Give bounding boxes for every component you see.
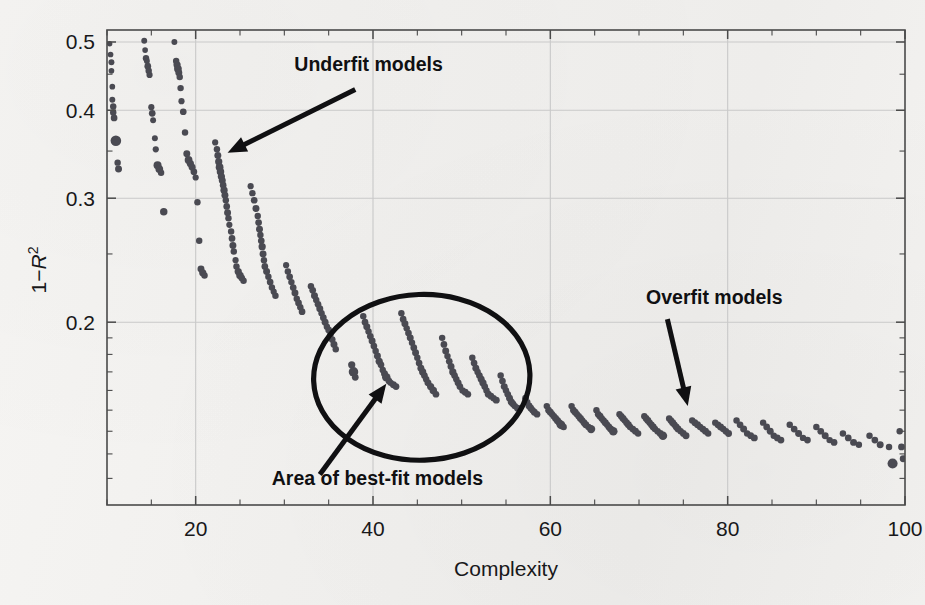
axis-tick-labels: 204060801000.20.30.40.5: [66, 30, 923, 540]
data-point: [214, 146, 220, 152]
data-point: [108, 52, 114, 58]
axis-ticks: [107, 30, 905, 505]
data-point: [258, 237, 265, 244]
data-point: [272, 293, 278, 299]
data-point: [228, 228, 234, 234]
data-point: [225, 215, 231, 221]
axis-frame: [107, 30, 905, 505]
data-point: [194, 199, 200, 205]
data-point: [214, 152, 221, 159]
data-point: [352, 374, 359, 381]
data-point: [177, 85, 183, 91]
data-point: [845, 435, 852, 442]
data-point: [178, 98, 184, 104]
data-point: [439, 335, 445, 341]
data-point: [725, 430, 732, 437]
data-point: [393, 383, 400, 390]
data-point: [257, 232, 263, 238]
data-point: [333, 346, 339, 352]
y-tick-label: 0.2: [66, 311, 95, 334]
data-point: [856, 441, 862, 447]
annotation-label-best-fit: Area of best-fit models: [272, 467, 483, 489]
data-point: [398, 310, 404, 316]
data-point: [635, 430, 641, 436]
data-point: [111, 135, 122, 146]
y-tick-label: 0.5: [66, 30, 95, 53]
data-point: [256, 226, 263, 233]
data-point: [609, 427, 618, 436]
data-point: [115, 166, 122, 173]
data-point: [877, 441, 884, 448]
data-point: [141, 38, 147, 44]
data-point: [249, 190, 255, 196]
data-point: [705, 430, 711, 436]
data-point: [153, 146, 159, 152]
data-point: [441, 341, 448, 348]
data-point: [240, 278, 246, 284]
x-tick-label: 20: [184, 517, 207, 540]
data-point: [260, 250, 267, 257]
data-point: [109, 84, 115, 90]
data-point: [261, 257, 267, 263]
data-point: [111, 115, 118, 122]
data-point: [171, 39, 177, 45]
data-point: [226, 222, 232, 228]
data-point: [109, 68, 115, 74]
data-point: [212, 139, 218, 145]
data-point: [149, 110, 156, 117]
data-point: [196, 238, 202, 244]
data-point: [360, 313, 366, 319]
data-point: [191, 168, 198, 175]
data-point: [840, 430, 846, 436]
data-point: [108, 59, 114, 65]
data-point: [291, 290, 298, 297]
data-point: [804, 437, 811, 444]
figure-container: 204060801000.20.30.40.5 Underfit modelsO…: [0, 0, 925, 605]
data-point: [231, 248, 237, 254]
y-axis-title-text: 1−R2: [25, 246, 50, 293]
x-tick-label: 100: [887, 517, 922, 540]
data-point: [465, 391, 472, 398]
data-point: [252, 205, 259, 212]
x-tick-label: 60: [539, 517, 562, 540]
data-point: [223, 197, 229, 203]
data-point: [251, 197, 258, 204]
data-point: [433, 391, 440, 398]
data-point: [229, 242, 236, 249]
data-point: [232, 257, 238, 263]
data-point: [114, 159, 120, 165]
data-point: [299, 308, 306, 315]
x-tick-label: 40: [361, 517, 384, 540]
data-point: [148, 104, 154, 110]
data-point: [560, 424, 566, 430]
data-point: [493, 397, 500, 404]
data-point: [659, 431, 668, 440]
data-point: [182, 129, 188, 135]
data-point: [176, 74, 182, 80]
annotation-arrow-overfit: [667, 319, 684, 390]
data-point: [223, 203, 230, 210]
data-point: [259, 243, 266, 250]
annotation-arrowhead-overfit: [676, 386, 692, 406]
data-point: [751, 434, 758, 441]
x-axis-title: Complexity: [454, 557, 558, 580]
data-point: [158, 170, 164, 176]
data-point: [193, 174, 199, 180]
data-point: [886, 444, 892, 450]
annotation-label-overfit: Overfit models: [646, 286, 783, 308]
x-tick-label: 80: [716, 517, 739, 540]
data-point: [160, 208, 167, 215]
data-point: [283, 262, 289, 268]
data-point: [683, 432, 690, 439]
annotation-arrow-underfit: [242, 90, 355, 146]
data-point: [777, 437, 784, 444]
annotation-arrow-best-fit: [320, 397, 377, 475]
data-point: [871, 437, 878, 444]
data-point: [587, 425, 595, 433]
data-point: [229, 235, 236, 242]
data-point: [109, 97, 115, 103]
data-point: [255, 213, 261, 219]
data-point: [534, 411, 541, 418]
data-point: [201, 272, 207, 278]
data-point: [142, 47, 148, 53]
